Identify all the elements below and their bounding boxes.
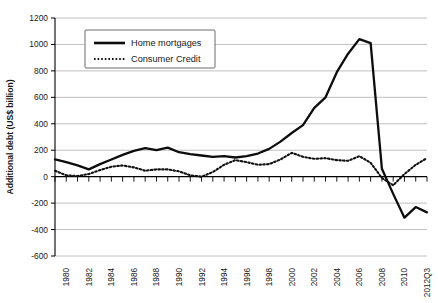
x-tick-label: 1986 <box>130 268 139 287</box>
x-tick-label: 2000 <box>288 268 297 287</box>
y-axis-title: Additional debt (US$ billion) <box>5 79 15 194</box>
y-tick-label: 800 <box>34 66 48 76</box>
y-tick-label: -200 <box>31 198 48 208</box>
y-tick-label: 400 <box>34 119 48 129</box>
x-tick-label: 2008 <box>378 268 387 287</box>
x-axis-ticks: 1980198219841986198819901992199419961998… <box>55 177 432 297</box>
x-tick-label: 1998 <box>265 268 274 287</box>
x-tick-label: 1992 <box>198 268 207 287</box>
chart-legend: Home mortgagesConsumer Credit <box>85 30 215 68</box>
x-tick-label: 2002 <box>310 268 319 287</box>
legend-label: Consumer Credit <box>131 54 201 64</box>
x-tick-label: 2012Q3 <box>423 268 432 298</box>
x-tick-label: 2006 <box>355 268 364 287</box>
y-axis-ticks: 120010008006004002000-200-400-600 <box>29 13 55 261</box>
x-tick-label: 1980 <box>62 268 71 287</box>
y-tick-label: 1200 <box>29 13 48 23</box>
x-tick-label: 1994 <box>220 268 229 287</box>
x-tick-label: 1988 <box>152 268 161 287</box>
line-chart: 120010008006004002000-200-400-600 198019… <box>0 0 438 303</box>
x-tick-label: 2004 <box>333 268 342 287</box>
x-tick-label: 2010 <box>400 268 409 287</box>
x-tick-label: 1996 <box>243 268 252 287</box>
x-tick-label: 1984 <box>107 268 116 287</box>
y-tick-label: 600 <box>34 92 48 102</box>
y-tick-label: -600 <box>31 251 48 261</box>
x-tick-label: 1982 <box>85 268 94 287</box>
legend-label: Home mortgages <box>131 38 202 48</box>
y-tick-label: 0 <box>43 172 48 182</box>
chart-container: 120010008006004002000-200-400-600 198019… <box>0 0 438 303</box>
x-tick-label: 1990 <box>175 268 184 287</box>
y-tick-label: -400 <box>31 225 48 235</box>
y-tick-label: 200 <box>34 145 48 155</box>
y-tick-label: 1000 <box>29 39 48 49</box>
